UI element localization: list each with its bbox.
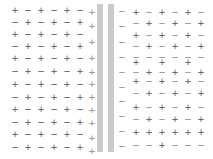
positive-charge-icon: +: [11, 30, 20, 39]
negative-charge-icon: −: [132, 19, 141, 28]
positive-charge-icon: +: [145, 42, 154, 51]
positive-charge-icon: +: [37, 54, 46, 63]
negative-charge-icon: −: [118, 97, 127, 106]
negative-charge-icon: −: [63, 143, 72, 152]
positive-charge-icon: +: [197, 115, 206, 124]
positive-charge-icon: +: [132, 58, 141, 67]
positive-charge-icon: +: [11, 80, 20, 89]
positive-charge-icon: +: [76, 93, 85, 102]
positive-charge-icon: +: [88, 54, 97, 63]
negative-charge-icon: −: [24, 54, 33, 63]
positive-charge-icon: +: [145, 128, 154, 137]
negative-charge-icon: −: [184, 42, 193, 51]
negative-charge-icon: −: [50, 6, 59, 15]
negative-charge-icon: −: [197, 77, 206, 86]
positive-charge-icon: +: [145, 19, 154, 28]
negative-charge-icon: −: [37, 93, 46, 102]
positive-charge-icon: +: [50, 67, 59, 76]
negative-charge-icon: −: [197, 8, 206, 17]
positive-charge-icon: +: [197, 89, 206, 98]
positive-charge-icon: +: [88, 106, 97, 115]
positive-charge-icon: +: [184, 58, 193, 67]
negative-charge-icon: −: [118, 38, 127, 47]
positive-charge-icon: +: [88, 119, 97, 128]
positive-charge-icon: +: [24, 118, 33, 127]
positive-charge-icon: +: [171, 42, 180, 51]
positive-charge-icon: +: [24, 143, 33, 152]
positive-charge-icon: +: [88, 80, 97, 89]
negative-charge-icon: −: [118, 68, 127, 77]
negative-charge-icon: −: [11, 143, 20, 152]
negative-charge-icon: −: [76, 54, 85, 63]
negative-charge-icon: −: [158, 19, 167, 28]
negative-charge-icon: −: [24, 80, 33, 89]
positive-charge-icon: +: [76, 118, 85, 127]
negative-charge-icon: −: [145, 53, 154, 62]
negative-charge-icon: −: [24, 130, 33, 139]
positive-charge-icon: +: [88, 22, 97, 31]
negative-charge-icon: −: [184, 89, 193, 98]
negative-charge-icon: −: [11, 118, 20, 127]
negative-charge-icon: −: [118, 112, 127, 121]
positive-charge-icon: +: [158, 58, 167, 67]
negative-charge-icon: −: [118, 53, 127, 62]
negative-charge-icon: −: [118, 22, 127, 31]
negative-charge-icon: −: [171, 77, 180, 86]
positive-charge-icon: +: [88, 8, 97, 17]
negative-charge-icon: −: [184, 19, 193, 28]
positive-charge-icon: +: [171, 128, 180, 137]
negative-charge-icon: −: [132, 89, 141, 98]
positive-charge-icon: +: [63, 130, 72, 139]
positive-charge-icon: +: [145, 89, 154, 98]
positive-charge-icon: +: [11, 54, 20, 63]
positive-charge-icon: +: [50, 18, 59, 27]
positive-charge-icon: +: [11, 130, 20, 139]
negative-charge-icon: −: [118, 127, 127, 136]
negative-charge-icon: −: [171, 53, 180, 62]
positive-charge-icon: +: [197, 128, 206, 137]
positive-charge-icon: +: [145, 115, 154, 124]
negative-charge-icon: −: [37, 67, 46, 76]
positive-charge-icon: +: [63, 105, 72, 114]
positive-charge-icon: +: [88, 134, 97, 143]
positive-charge-icon: +: [158, 8, 167, 17]
positive-charge-icon: +: [184, 103, 193, 112]
negative-charge-icon: −: [132, 42, 141, 51]
negative-charge-icon: −: [171, 31, 180, 40]
positive-charge-icon: +: [158, 141, 167, 150]
positive-charge-icon: +: [24, 18, 33, 27]
negative-charge-icon: −: [184, 115, 193, 124]
negative-charge-icon: −: [197, 53, 206, 62]
positive-charge-icon: +: [197, 19, 206, 28]
positive-charge-icon: +: [50, 93, 59, 102]
positive-charge-icon: +: [132, 103, 141, 112]
negative-charge-icon: −: [197, 31, 206, 40]
negative-charge-icon: −: [24, 30, 33, 39]
positive-charge-icon: +: [37, 80, 46, 89]
positive-charge-icon: +: [63, 6, 72, 15]
positive-charge-icon: +: [76, 67, 85, 76]
negative-charge-icon: −: [145, 103, 154, 112]
negative-charge-icon: −: [63, 118, 72, 127]
positive-charge-icon: +: [37, 6, 46, 15]
positive-charge-icon: +: [132, 77, 141, 86]
negative-charge-icon: −: [76, 105, 85, 114]
negative-charge-icon: −: [132, 115, 141, 124]
positive-charge-icon: +: [76, 18, 85, 27]
positive-charge-icon: +: [158, 103, 167, 112]
negative-charge-icon: −: [171, 8, 180, 17]
positive-charge-icon: +: [11, 6, 20, 15]
positive-charge-icon: +: [132, 31, 141, 40]
negative-charge-icon: −: [76, 30, 85, 39]
negative-charge-icon: −: [118, 83, 127, 92]
positive-charge-icon: +: [37, 105, 46, 114]
positive-charge-icon: +: [50, 42, 59, 51]
negative-charge-icon: −: [11, 18, 20, 27]
positive-charge-icon: +: [171, 115, 180, 124]
positive-charge-icon: +: [63, 80, 72, 89]
positive-charge-icon: +: [37, 130, 46, 139]
positive-charge-icon: +: [50, 118, 59, 127]
negative-charge-icon: −: [63, 93, 72, 102]
negative-charge-icon: −: [63, 67, 72, 76]
negative-charge-icon: −: [63, 18, 72, 27]
